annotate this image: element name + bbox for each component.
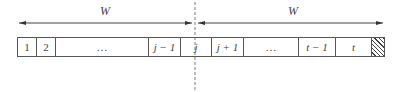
cell-ellipsis-right: …	[244, 38, 299, 56]
cell-t-minus-1: t − 1	[299, 38, 336, 56]
left-window-label: W	[100, 4, 110, 19]
cell-1: 1	[18, 38, 37, 56]
hatched-cell	[372, 38, 384, 56]
sequence-bar: 1 2 … j − 1 j j + 1 … t − 1 t	[17, 37, 385, 57]
cell-t: t	[336, 38, 372, 56]
right-window-label: W	[288, 4, 298, 19]
cell-j-minus-1: j − 1	[149, 38, 181, 56]
cell-2: 2	[37, 38, 56, 56]
cell-j-plus-1: j + 1	[212, 38, 244, 56]
cell-j: j	[181, 38, 212, 56]
cell-ellipsis-left: …	[56, 38, 149, 56]
